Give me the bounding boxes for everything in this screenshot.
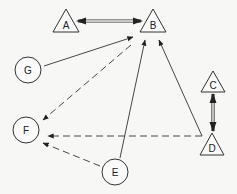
arrowhead-icon bbox=[210, 93, 217, 103]
graph-diagram: A B C D G F E bbox=[0, 0, 237, 194]
edge-e-b bbox=[120, 40, 145, 158]
node-label: F bbox=[23, 125, 29, 136]
edge-a-b bbox=[76, 18, 143, 25]
arrowhead-icon bbox=[133, 18, 143, 25]
node-label: C bbox=[209, 80, 216, 91]
edge-b-f bbox=[43, 45, 131, 120]
edge-d-b bbox=[159, 40, 202, 136]
node-f[interactable]: F bbox=[13, 117, 39, 143]
node-label: E bbox=[112, 167, 119, 178]
arrowhead-icon bbox=[210, 122, 217, 132]
node-a[interactable]: A bbox=[53, 9, 79, 32]
node-e[interactable]: E bbox=[102, 159, 128, 185]
node-b[interactable]: B bbox=[140, 9, 166, 32]
node-c[interactable]: C bbox=[201, 71, 225, 92]
arrowhead-icon bbox=[76, 18, 86, 25]
node-label: B bbox=[150, 20, 157, 31]
edge-g-b bbox=[44, 37, 133, 66]
node-label: G bbox=[24, 65, 32, 76]
edge-e-f bbox=[43, 143, 100, 166]
node-label: D bbox=[208, 143, 215, 154]
node-label: A bbox=[63, 20, 70, 31]
edge-c-d bbox=[210, 93, 217, 132]
node-g[interactable]: G bbox=[15, 57, 41, 83]
node-d[interactable]: D bbox=[200, 133, 224, 155]
